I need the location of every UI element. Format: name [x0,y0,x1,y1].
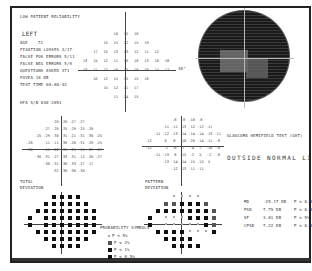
total-prob-cell [90,216,98,223]
probability-symbol-icon [197,230,199,232]
total-deviation-cell: -30 [34,155,43,162]
global-index-value: 3.01 DB [263,215,289,223]
pattern-prob-cell [186,195,194,202]
total-deviation-cell: -25 [60,127,69,134]
threshold-cell: 11 [121,86,131,95]
probability-symbol-icon [180,237,184,241]
total-prob-cell [26,244,34,251]
global-index-name: SF [244,215,258,223]
pattern-prob-cell [146,209,154,216]
total-prob-cell [90,209,98,216]
total-deviation-cell [34,127,43,134]
probability-symbol-icon [204,223,208,227]
threshold-cell: 11 [90,68,100,77]
false-neg-errors: FALSE NEG ERRORS 5/9 [20,61,72,66]
ght-caption: GLAUCOMA HEMIFIELD TEST (GHT) [227,133,303,138]
threshold-cell [152,77,162,86]
probability-symbol-icon [76,230,80,234]
probability-symbol-icon [164,202,168,206]
pattern-prob-cell [194,223,202,230]
total-prob-cell [66,237,74,244]
probability-symbol-icon [44,223,48,227]
pattern-prob-cell [186,216,194,223]
total-prob-cell [42,237,50,244]
probability-symbol-icon [165,216,167,218]
global-index-p: P < 0.5% [294,199,312,207]
pattern-deviation-cell: -8 [213,139,222,146]
total-deviation-cell [34,141,43,148]
pattern-prob-cell [186,237,194,244]
threshold-cell [90,41,100,50]
pattern-prob-cell [186,202,194,209]
total-deviation-cell: -31 [60,148,69,155]
threshold-cell: 15 [131,95,141,104]
threshold-cell [152,86,162,95]
pattern-deviation-cell [153,167,162,174]
probability-symbol-icon [76,237,80,241]
global-index-name: CPSD [244,223,258,231]
pattern-prob-cell [202,230,210,237]
pattern-prob-cell [146,237,154,244]
total-deviation-cell: -11 [42,141,51,148]
threshold-cell: 12 [111,86,121,95]
threshold-grid: 1015101515121519171513131211121315121116… [80,32,172,104]
threshold-cell: 16 [121,59,131,68]
probability-symbol-icon [108,255,112,259]
pattern-deviation-cell: -8 [196,118,205,125]
threshold-cell [80,77,90,86]
total-prob-cell [58,244,66,251]
total-prob-cell [26,237,34,244]
pattern-deviation-cell: -11 [205,139,214,146]
probability-symbol-icon [44,209,48,213]
pattern-deviation-cell: -2 [161,146,170,153]
grayscale-axis-horizontal [196,58,294,59]
total-deviation-cell: -27 [51,155,60,162]
total-prob-cell [66,230,74,237]
total-prob-cell [74,230,82,237]
probability-symbol-icon [60,202,64,206]
threshold-cell [141,86,151,95]
total-deviation-cell: -27 [77,120,86,127]
pattern-prob-cell [210,209,218,216]
threshold-cell: 15 [111,77,121,86]
pattern-prob-cell [202,195,210,202]
probability-symbol-icon [197,195,199,197]
probability-symbol-icon [172,244,176,248]
threshold-cell [90,32,100,41]
total-prob-cell [34,244,42,251]
probability-symbol-icon [204,216,208,220]
threshold-cell: 12 [100,68,110,77]
total-deviation-cell: -26 [25,141,34,148]
total-prob-cell [26,202,34,209]
total-deviation-cell: -17 [86,162,95,169]
pattern-prob-cell [154,195,162,202]
pattern-prob-cell [170,202,178,209]
pattern-prob-cell [194,237,202,244]
threshold-cell: 15 [121,77,131,86]
pattern-prob-cell [154,202,162,209]
global-index-row: MD-25.17 DBP < 0.5% [244,199,312,207]
total-deviation-cell: -30 [60,141,69,148]
pattern-deviation-cell: -13 [179,167,188,174]
threshold-cell [162,32,172,41]
threshold-cell [152,95,162,104]
threshold-cell: 11 [111,95,121,104]
test-time: TEST TIME 00:08:42 [20,82,67,87]
probability-symbol-icon [60,230,64,234]
pattern-deviation-cell: -14 [196,132,205,139]
total-prob-cell [74,202,82,209]
total-prob-cell [50,195,58,202]
pattern-deviation-cell: -12 [161,132,170,139]
pattern-prob-cell [178,244,186,251]
threshold-cell [90,95,100,104]
total-prob-cell [74,223,82,230]
total-deviation-cell: -21 [68,134,77,141]
probability-symbol-icon [68,195,72,199]
threshold-cell: 16 [141,68,151,77]
pattern-prob-cell [210,195,218,202]
probability-symbol-icon [181,195,183,197]
prob-legend-label: P < 5% [112,233,128,238]
total-deviation-cell: -31 [68,155,77,162]
total-deviation-cell [25,127,34,134]
probability-symbol-icon [188,209,192,213]
